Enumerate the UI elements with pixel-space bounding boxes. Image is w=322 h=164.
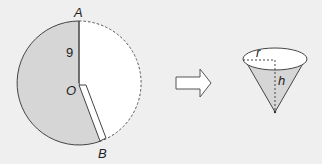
circle-sector-figure: A 9 O B [17,5,141,161]
point-a-label: A [73,5,83,20]
sector-to-cone-diagram: A 9 O B r h [0,0,322,164]
radius-value-label: 9 [66,45,73,60]
cone-radius-label: r [256,45,261,60]
cone-apex [274,111,276,113]
cone-height-label: h [278,73,285,88]
point-b-label: B [98,146,107,161]
cone-base-ellipse [243,48,307,70]
cone-figure: r h [243,45,307,113]
center-o-label: O [66,83,76,98]
arrow-right-icon [176,69,211,97]
